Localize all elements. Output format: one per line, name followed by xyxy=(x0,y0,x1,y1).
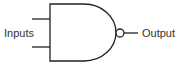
nand-gate-body xyxy=(50,4,116,61)
inversion-bubble xyxy=(116,29,124,37)
nand-gate-diagram: Inputs Output xyxy=(0,0,176,66)
output-label: Output xyxy=(142,27,175,39)
inputs-label: Inputs xyxy=(4,27,34,39)
